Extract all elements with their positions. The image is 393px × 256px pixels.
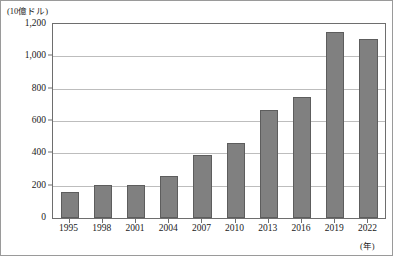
x-tick-label: 2013 (258, 223, 277, 233)
bar (94, 185, 112, 218)
bar (61, 192, 79, 218)
x-tick-label: 2010 (225, 223, 244, 233)
bar (326, 32, 344, 218)
y-tick-mark (48, 120, 52, 121)
x-axis-unit-label: (年) (360, 239, 375, 251)
x-tick-label: 2022 (358, 223, 377, 233)
plot-area (52, 23, 386, 219)
x-tick-mark (168, 219, 169, 223)
x-tick-mark (235, 219, 236, 223)
x-tick-mark (367, 219, 368, 223)
x-tick-mark (69, 219, 70, 223)
bars-group (53, 24, 385, 218)
bar (160, 176, 178, 218)
y-tick-label: 600 (32, 115, 46, 125)
y-tick-mark (48, 87, 52, 88)
bar (359, 39, 377, 219)
x-tick-mark (102, 219, 103, 223)
y-tick-mark (48, 184, 52, 185)
y-axis-unit-caption: (10億ドル) (7, 4, 48, 16)
y-tick-label: 800 (32, 83, 46, 93)
y-tick-label: 1,200 (25, 18, 46, 28)
x-tick-mark (301, 219, 302, 223)
x-tick-mark (201, 219, 202, 223)
x-tick-mark (135, 219, 136, 223)
y-tick-label: 200 (32, 180, 46, 190)
bar (227, 143, 245, 218)
y-axis: 02004006008001,0001,200 (1, 23, 46, 219)
x-tick-label: 2001 (126, 223, 145, 233)
x-tick-label: 2004 (159, 223, 178, 233)
x-tick-label: 2007 (192, 223, 211, 233)
y-tick-label: 0 (41, 212, 46, 222)
y-tick-mark (48, 152, 52, 153)
x-tick-label: 2019 (325, 223, 344, 233)
y-tick-mark (48, 55, 52, 56)
x-axis: 1995199820012004200720102013201620192022 (52, 223, 386, 239)
bar (260, 110, 278, 218)
x-tick-label: 2016 (292, 223, 311, 233)
x-tick-label: 1998 (92, 223, 111, 233)
bar (293, 97, 311, 218)
x-tick-mark (334, 219, 335, 223)
x-tick-mark (268, 219, 269, 223)
y-tick-label: 1,000 (25, 50, 46, 60)
bar (127, 185, 145, 218)
bar-chart-figure: (10億ドル) 02004006008001,0001,200 19951998… (0, 0, 393, 256)
x-tick-label: 1995 (59, 223, 78, 233)
bar (193, 155, 211, 218)
y-tick-label: 400 (32, 147, 46, 157)
